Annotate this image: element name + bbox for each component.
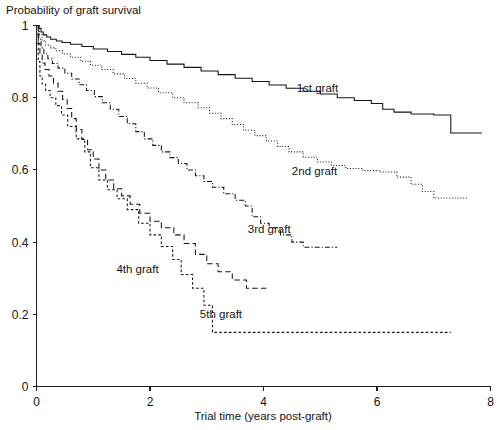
x-axis-tick-labels: 02468: [33, 395, 494, 409]
y-tick-label: 0.6: [12, 163, 29, 177]
survival-curve-3: [37, 26, 338, 248]
x-tick-label: 4: [260, 395, 267, 409]
curve-label-5: 5th graft: [200, 308, 243, 320]
y-axis-tick-labels: 00.20.40.60.81: [12, 19, 29, 394]
x-axis-ticks: [37, 387, 491, 391]
curve-label-1: 1st graft: [297, 82, 339, 94]
survival-curve-1: [37, 26, 482, 134]
chart-canvas: 00.20.40.60.81 02468 1st graft2nd graft3…: [0, 0, 504, 430]
x-tick-label: 0: [33, 395, 40, 409]
x-tick-label: 6: [374, 395, 381, 409]
x-axis-label: Trial time (years post-graft): [194, 410, 332, 422]
survival-curves-group: [37, 26, 482, 333]
x-tick-label: 2: [147, 395, 154, 409]
curve-label-4: 4th graft: [116, 263, 159, 275]
survival-chart-figure: 00.20.40.60.81 02468 1st graft2nd graft3…: [0, 0, 504, 430]
curve-label-2: 2nd graft: [292, 165, 338, 177]
y-axis-ticks: [33, 26, 37, 387]
y-tick-label: 0.8: [12, 91, 29, 105]
curve-annotations-group: 1st graft2nd graft3rd graft4th graft5th …: [116, 82, 339, 320]
x-tick-label: 8: [487, 395, 494, 409]
y-tick-label: 0.2: [12, 308, 29, 322]
survival-curve-5: [37, 26, 451, 333]
survival-curve-4: [37, 26, 267, 289]
chart-title: Probability of graft survival: [6, 4, 141, 16]
y-tick-label: 0: [22, 380, 29, 394]
curve-label-3: 3rd graft: [248, 223, 292, 235]
y-tick-label: 0.4: [12, 236, 29, 250]
y-tick-label: 1: [22, 19, 29, 33]
